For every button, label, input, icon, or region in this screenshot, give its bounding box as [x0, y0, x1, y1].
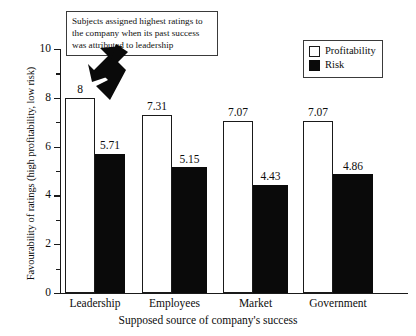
bar-value-label: 5.15 — [166, 154, 213, 166]
bar-value-label: 8 — [59, 84, 101, 96]
annotation-line-1: Subjects assigned highest ratings to — [72, 15, 212, 27]
legend-swatch-profitability-icon — [309, 46, 320, 57]
bar-leadership-profitability — [65, 98, 95, 293]
x-axis-line — [60, 293, 408, 294]
category-label-government: Government — [278, 297, 398, 309]
bar-chart-figure: Favourability of ratings (high profitabi… — [0, 0, 416, 336]
y-tick-label: 8 — [45, 92, 51, 104]
annotation-callout: Subjects assigned highest ratings to the… — [66, 11, 218, 56]
bar-value-label: 7.07 — [217, 107, 259, 119]
bar-value-label: 4.43 — [247, 171, 294, 183]
bar-market-profitability — [223, 121, 253, 294]
y-tick-label: 10 — [40, 43, 52, 55]
y-axis-title: Favourability of ratings (high profitabi… — [25, 49, 36, 299]
legend-label-profitability: Profitability — [325, 46, 376, 57]
bar-employees-profitability — [142, 115, 172, 293]
plot-area: 85.717.315.157.074.437.074.86 — [60, 49, 408, 293]
bar-value-label: 5.71 — [89, 140, 131, 152]
bar-market-risk — [253, 185, 288, 293]
y-tick-label: 2 — [45, 238, 51, 250]
bar-government-profitability — [303, 121, 333, 294]
y-tick-mark — [54, 293, 60, 294]
annotation-line-3: was attributed to leadership — [72, 39, 212, 51]
legend-item-profitability: Profitability — [309, 45, 376, 58]
chart-legend: Profitability Risk — [303, 40, 383, 78]
bar-value-label: 7.07 — [297, 107, 339, 119]
bar-government-risk — [333, 174, 373, 293]
x-axis-title: Supposed source of company's success — [0, 314, 416, 326]
bar-value-label: 4.86 — [327, 161, 379, 173]
bar-employees-risk — [172, 167, 207, 293]
y-tick-label: 4 — [45, 190, 51, 202]
legend-item-risk: Risk — [309, 59, 376, 72]
annotation-line-2: the company when its past success — [72, 27, 212, 39]
y-tick-label: 6 — [45, 141, 51, 153]
bar-value-label: 7.31 — [136, 101, 178, 113]
bar-leadership-risk — [95, 154, 125, 293]
legend-label-risk: Risk — [325, 60, 344, 71]
legend-swatch-risk-icon — [309, 60, 320, 71]
